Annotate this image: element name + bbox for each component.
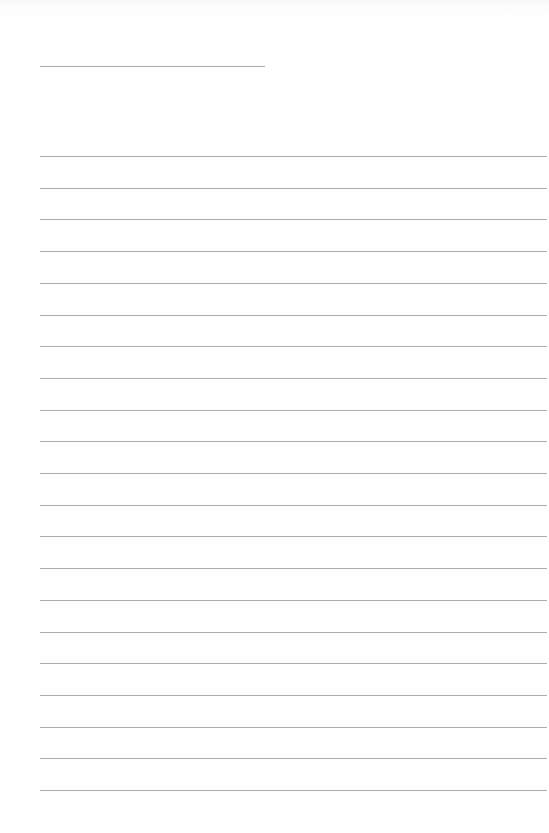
ruled-line xyxy=(40,790,547,791)
ruled-line xyxy=(40,758,547,759)
ruled-line xyxy=(40,251,547,252)
ruled-line xyxy=(40,219,547,220)
ruled-line xyxy=(40,663,547,664)
ruled-line xyxy=(40,632,547,633)
ruled-line xyxy=(40,346,547,347)
header-write-line xyxy=(40,66,265,67)
lined-paper-sheet xyxy=(0,0,549,833)
ruled-line xyxy=(40,378,547,379)
ruled-line xyxy=(40,473,547,474)
ruled-line xyxy=(40,315,547,316)
ruled-line xyxy=(40,156,547,157)
ruled-line xyxy=(40,536,547,537)
ruled-line xyxy=(40,727,547,728)
ruled-line xyxy=(40,283,547,284)
ruled-line xyxy=(40,410,547,411)
ruled-line xyxy=(40,695,547,696)
ruled-line xyxy=(40,188,547,189)
ruled-line xyxy=(40,568,547,569)
ruled-line xyxy=(40,505,547,506)
ruled-line xyxy=(40,441,547,442)
ruled-line xyxy=(40,600,547,601)
